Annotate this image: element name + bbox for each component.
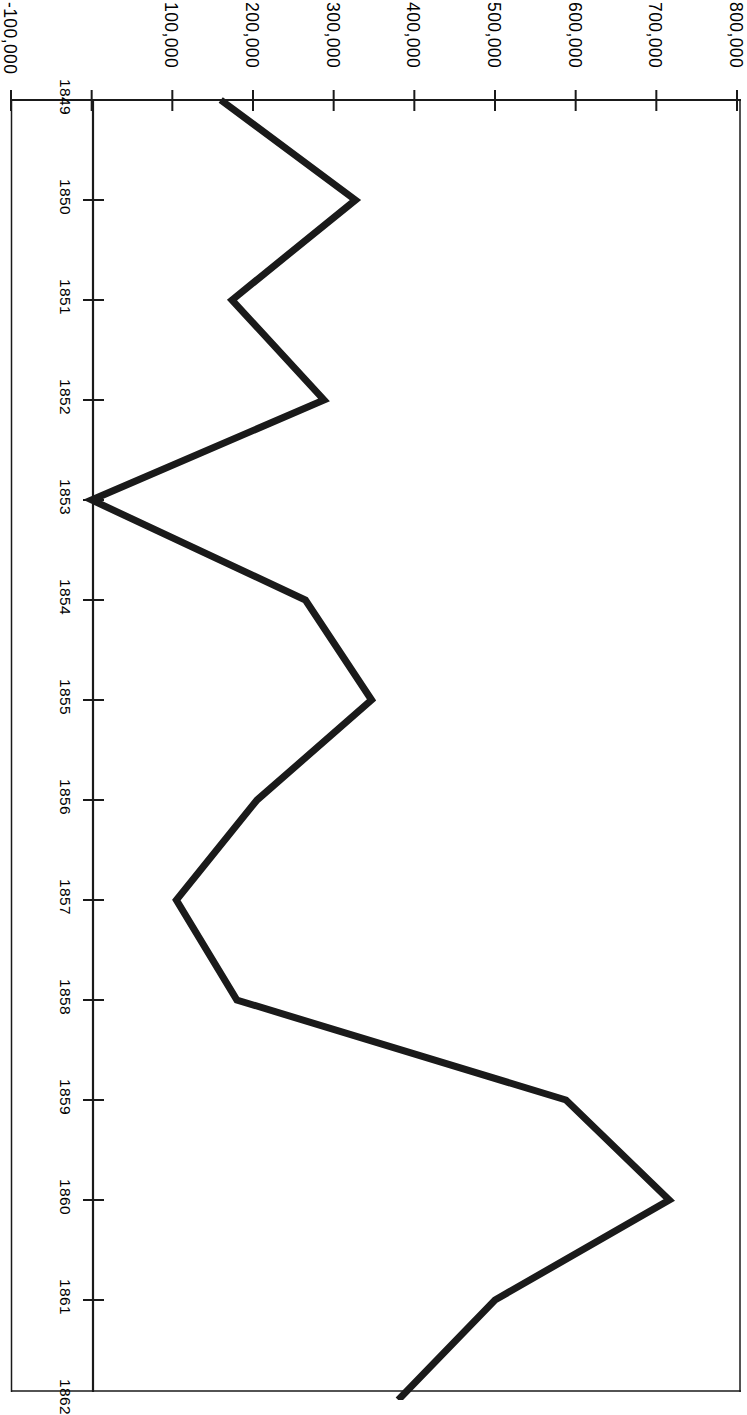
value-axis-label-8: 700,000 <box>644 2 665 68</box>
year-axis-label-11: 1860 <box>56 1179 74 1215</box>
year-axis-label-12: 1861 <box>56 1279 74 1315</box>
year-axis-label-7: 1856 <box>56 779 74 815</box>
year-axis-label-10: 1859 <box>56 1079 74 1115</box>
value-axis-label-7: 600,000 <box>564 2 585 68</box>
year-axis-label-6: 1855 <box>56 679 74 715</box>
value-axis-label-2: 100,000 <box>160 2 181 68</box>
value-axis-label-0: -100,000 <box>0 2 20 74</box>
year-axis-label-1: 1850 <box>56 179 74 215</box>
year-axis-label-4: 1853 <box>56 479 74 515</box>
value-axis-label-5: 400,000 <box>402 2 423 68</box>
year-axis-label-3: 1852 <box>56 379 74 415</box>
data-series-line <box>92 100 670 1400</box>
value-axis-label-6: 500,000 <box>483 2 504 68</box>
year-axis-label-9: 1858 <box>56 979 74 1015</box>
value-axis-label-4: 300,000 <box>322 2 343 68</box>
value-axis-label-9: 800,000 <box>725 2 746 68</box>
year-axis-label-13: 1862 <box>56 1379 74 1415</box>
year-axis-label-2: 1851 <box>56 279 74 315</box>
year-axis-label-0: 1849 <box>56 79 74 115</box>
plot-frame <box>11 100 741 1392</box>
year-axis-label-8: 1857 <box>56 879 74 915</box>
year-axis-label-5: 1854 <box>56 579 74 615</box>
value-axis-label-3: 200,000 <box>241 2 262 68</box>
